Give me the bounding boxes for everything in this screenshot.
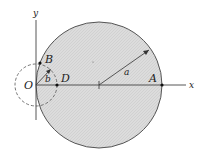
y-axis-label: y (32, 8, 39, 18)
center-dot (92, 61, 93, 62)
point-d (55, 83, 58, 86)
x-axis-label: x (189, 80, 194, 90)
point-a (160, 83, 163, 86)
diagram-canvas: y x a b A B D O (0, 0, 204, 151)
radius-a-label: a (124, 67, 129, 77)
point-d-label: D (60, 72, 70, 85)
point-b-label: B (44, 53, 53, 66)
point-b (38, 61, 41, 64)
radius-b-label: b (45, 74, 51, 84)
origin-label: O (24, 79, 33, 92)
point-a-label: A (148, 72, 157, 85)
